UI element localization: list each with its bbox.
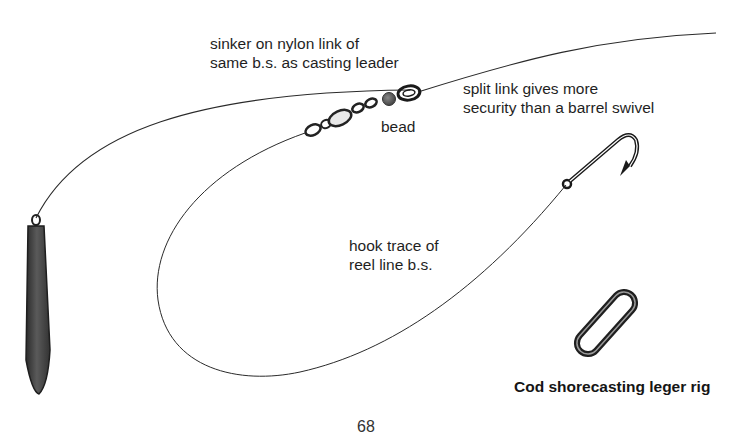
- split-link-label-line1: split link gives more: [463, 79, 654, 98]
- page-number: 68: [357, 418, 375, 436]
- swivel-icon: [304, 97, 378, 138]
- hook-trace-label-line2: reel line b.s.: [349, 255, 439, 274]
- split-link-icon: [572, 287, 639, 358]
- sinker-link-label-line2: same b.s. as casting leader: [210, 53, 399, 72]
- sinker-link-line: [36, 90, 410, 218]
- sinker-link-label-line1: sinker on nylon link of: [210, 34, 399, 53]
- sinker-icon: [26, 215, 50, 394]
- bead-label: bead: [381, 117, 415, 136]
- split-link-label-line2: security than a barrel swivel: [463, 98, 654, 117]
- sinker-link-label: sinker on nylon link of same b.s. as cas…: [210, 34, 399, 72]
- diagram-title: Cod shorecasting leger rig: [514, 378, 710, 396]
- hook-trace-label-line1: hook trace of: [349, 236, 439, 255]
- bead-icon: [383, 93, 396, 106]
- split-link-label: split link gives more security than a ba…: [463, 79, 654, 117]
- hook-icon: [563, 135, 637, 188]
- split-ring-icon: [397, 84, 421, 102]
- hook-trace-label: hook trace of reel line b.s.: [349, 236, 439, 274]
